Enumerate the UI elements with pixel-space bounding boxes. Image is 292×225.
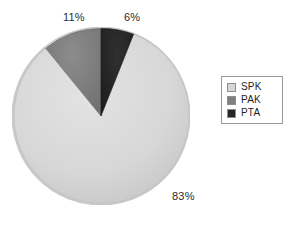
legend-item-pta: PTA xyxy=(227,107,278,119)
legend-label-pak: PAK xyxy=(241,95,261,105)
legend: SPK PAK PTA xyxy=(221,76,283,124)
pie-label-pak-percent: 11% xyxy=(63,12,85,23)
pie-label-spk-percent: 83% xyxy=(172,191,195,202)
legend-swatch-pta xyxy=(227,109,236,118)
pie-label-pta-percent: 6% xyxy=(124,12,140,23)
legend-swatch-spk xyxy=(227,83,236,92)
legend-swatch-pak xyxy=(227,96,236,105)
pie-graphic xyxy=(12,27,190,205)
legend-item-spk: SPK xyxy=(227,81,278,93)
legend-label-spk: SPK xyxy=(241,82,262,92)
legend-label-pta: PTA xyxy=(241,108,260,118)
pie-svg xyxy=(12,27,190,205)
pie-chart-figure: 11% 6% 83% SPK PAK PTA xyxy=(0,0,292,225)
legend-item-pak: PAK xyxy=(227,94,278,106)
